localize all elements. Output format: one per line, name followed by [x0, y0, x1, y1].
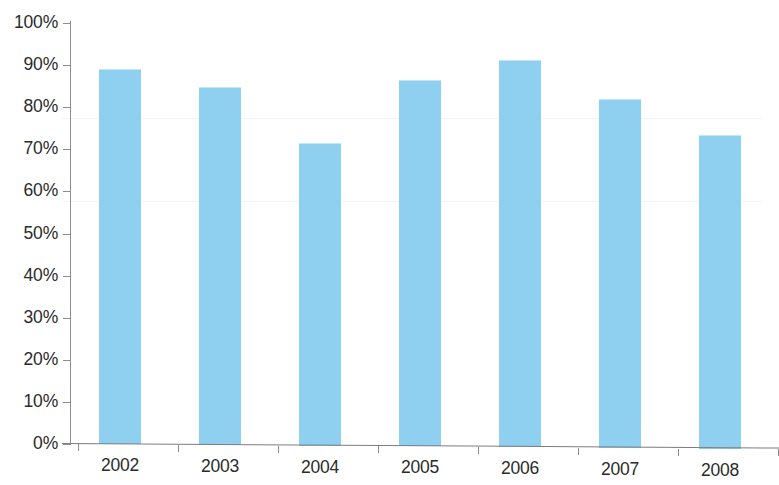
x-axis-tick-label: 2006	[501, 460, 539, 478]
x-axis-tick-label: 2002	[101, 457, 139, 475]
x-axis: 2002200320042005200620072008	[0, 0, 779, 485]
x-axis-tick-label: 2007	[601, 461, 639, 479]
x-axis-tick-label: 2005	[401, 459, 439, 477]
bar-chart: 100%90%80%70%60%50%40%30%20%10%0% 200220…	[0, 0, 779, 485]
x-axis-tick-label: 2004	[301, 459, 339, 477]
x-axis-tick-label: 2003	[201, 458, 239, 476]
x-axis-tick-label: 2008	[701, 462, 739, 480]
